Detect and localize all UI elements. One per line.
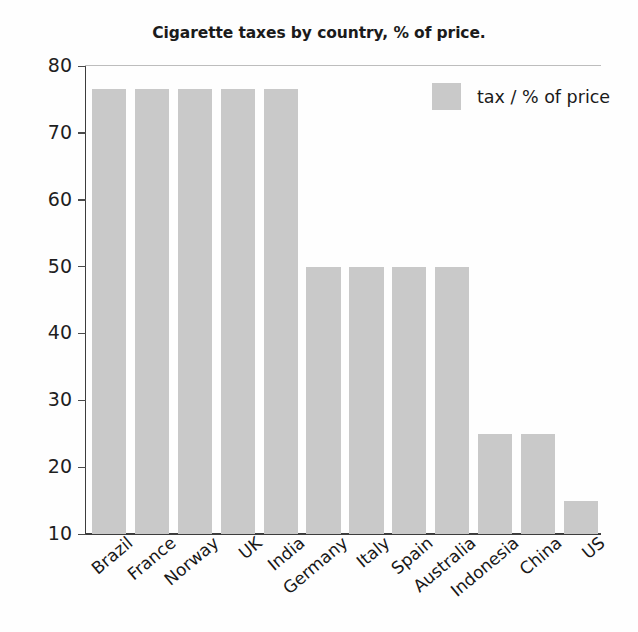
y-tick-label: 50 — [12, 257, 72, 276]
legend-swatch-icon — [432, 83, 461, 110]
y-tick-mark — [78, 534, 86, 535]
bar-chart: Cigarette taxes by country, % of price. … — [0, 0, 638, 632]
legend-label: tax / % of price — [477, 87, 610, 107]
x-tick-label: China — [517, 534, 566, 579]
x-tick-label: UK — [236, 534, 266, 563]
bar[interactable] — [521, 434, 555, 534]
bar[interactable] — [306, 267, 340, 534]
y-tick-mark — [78, 66, 86, 67]
y-tick-mark — [78, 199, 86, 200]
bar[interactable] — [435, 267, 469, 534]
y-tick-mark — [78, 132, 86, 133]
y-tick-label: 70 — [12, 123, 72, 142]
bar[interactable] — [221, 89, 255, 534]
y-tick-label: 60 — [12, 190, 72, 209]
bar[interactable] — [264, 89, 298, 534]
y-tick-label: 40 — [12, 323, 72, 342]
bar[interactable] — [564, 501, 598, 534]
y-tick-label: 30 — [12, 390, 72, 409]
y-tick-label: 20 — [12, 457, 72, 476]
bar[interactable] — [478, 434, 512, 534]
chart-title: Cigarette taxes by country, % of price. — [0, 24, 638, 42]
y-tick-mark — [78, 266, 86, 267]
bar[interactable] — [349, 267, 383, 534]
bars-container — [85, 66, 600, 534]
bar[interactable] — [392, 267, 426, 534]
y-tick-label: 80 — [12, 56, 72, 75]
y-tick-mark — [78, 467, 86, 468]
y-tick-mark — [78, 333, 86, 334]
y-tick-label: 10 — [12, 524, 72, 543]
bar[interactable] — [135, 89, 169, 534]
x-tick-label: US — [579, 534, 608, 563]
bar[interactable] — [92, 89, 126, 534]
chart-legend: tax / % of price — [432, 83, 610, 110]
bar[interactable] — [178, 89, 212, 534]
y-tick-mark — [78, 400, 86, 401]
x-tick-label: Italy — [354, 534, 394, 571]
y-axis: 1020304050607080 — [0, 0, 72, 632]
x-axis-labels: BrazilFranceNorwayUKIndiaGermanyItalySpa… — [85, 534, 638, 632]
